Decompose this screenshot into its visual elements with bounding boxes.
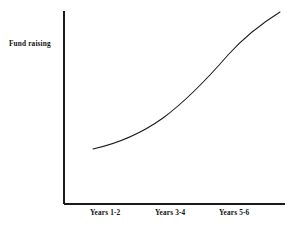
fund-raising-curve — [93, 12, 280, 149]
x-axis-tick-label-1: Years 1-2 — [90, 209, 120, 216]
chart-plot-area — [0, 0, 292, 233]
x-axis-tick-label-2: Years 3-4 — [155, 209, 185, 216]
chart-container: Fund raising Years 1-2 Years 3-4 Years 5… — [0, 0, 292, 233]
y-axis-label: Fund raising — [9, 40, 51, 47]
x-axis-tick-label-3: Years 5-6 — [219, 209, 249, 216]
